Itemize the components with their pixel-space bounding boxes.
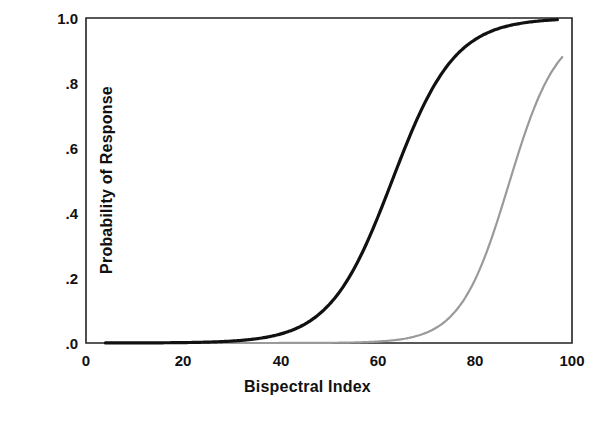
- y-tick-label-0.4: .4: [34, 205, 78, 222]
- x-tick-label-100: 100: [559, 352, 584, 369]
- y-tick-label-0.8: .8: [34, 75, 78, 92]
- y-tick-label-0.2: .2: [34, 270, 78, 287]
- x-tick-label-80: 80: [467, 352, 484, 369]
- chart-figure: 1.0 .8 .6 .4 .2 .0 0 20 40 60 80 100 Bis…: [0, 0, 615, 423]
- plot-canvas: [0, 0, 615, 423]
- x-tick-label-20: 20: [175, 352, 192, 369]
- x-tick-label-60: 60: [370, 352, 387, 369]
- x-tick-label-0: 0: [82, 352, 90, 369]
- y-axis-title: Probability of Response: [98, 86, 116, 274]
- series-line-gray: [105, 20, 557, 343]
- data-series-group: [105, 20, 562, 343]
- x-tick-label-40: 40: [273, 352, 290, 369]
- y-tick-label-0.6: .6: [34, 140, 78, 157]
- x-axis-title: Bispectral Index: [0, 378, 615, 396]
- axis-frame-rect: [86, 18, 572, 343]
- y-tick-label-1.0: 1.0: [34, 10, 78, 27]
- y-tick-label-0.0: .0: [34, 335, 78, 352]
- axis-frame: [86, 18, 572, 343]
